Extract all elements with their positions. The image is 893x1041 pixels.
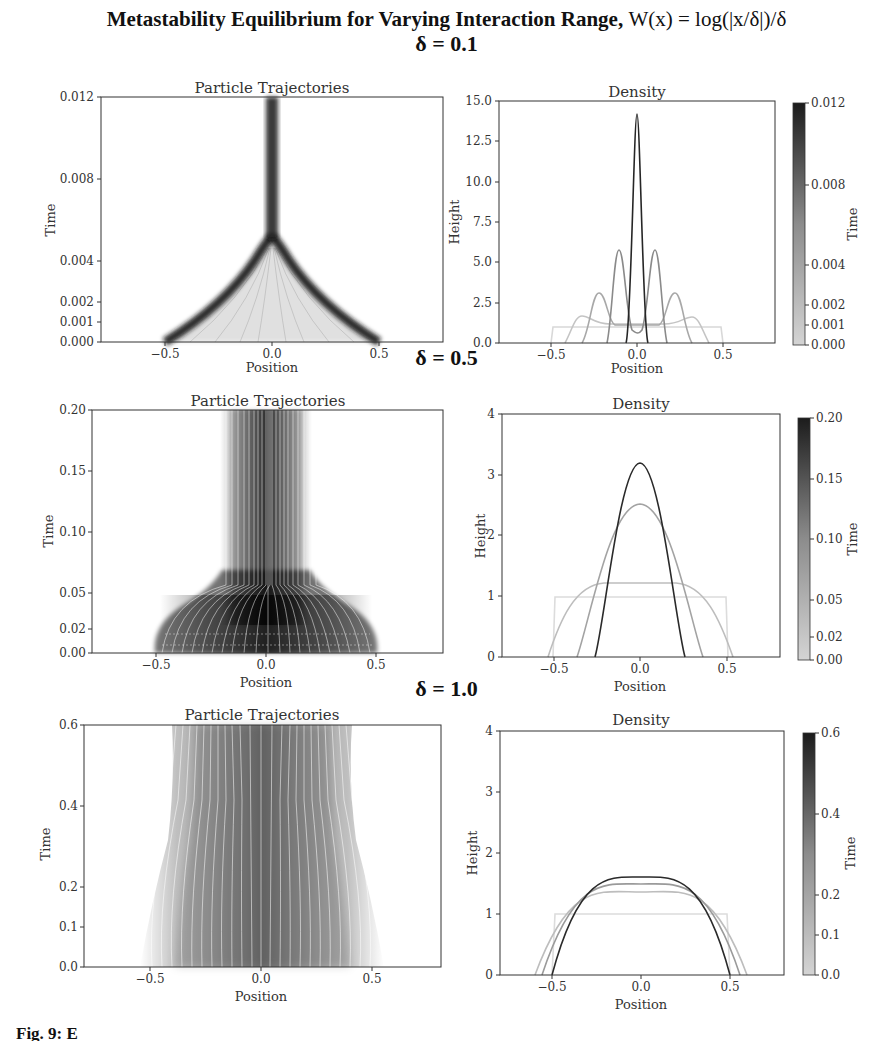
colorbar-tick-label: 0.2 (821, 888, 840, 902)
axes-frame (500, 731, 784, 975)
y-tick-label: 0.004 (60, 254, 95, 268)
x-tick-label: 0.0 (630, 662, 649, 676)
x-tick-label: 0.5 (366, 658, 385, 672)
x-tick-label: 0.0 (256, 658, 275, 672)
y-tick-label: 3 (485, 785, 493, 799)
figure-canvas: Particle Trajectories 0.000 0.001 0.002 … (0, 0, 893, 1041)
y-tick-label: 0.4 (59, 799, 78, 813)
y-tick-label: 0.1 (59, 920, 78, 934)
y-tick-label: 2 (485, 846, 493, 860)
colorbar-tick-label: 0.1 (821, 928, 840, 942)
plot-title: Density (612, 395, 670, 413)
x-axis-label: Position (246, 360, 299, 375)
y-tick-label: 15.0 (465, 94, 492, 108)
y-axis-label: Height (447, 199, 462, 245)
density-plot-delta-0-5: Density 0 1 2 3 4 −0.5 0.0 0.5 Position … (473, 395, 860, 694)
colorbar-tick-label: 0.6 (821, 726, 840, 740)
trajectories-plot-delta-1-0: Particle Trajectories (38, 706, 441, 1004)
y-tick-label: 10.0 (465, 175, 492, 189)
colorbar-tick-label: 0.002 (811, 298, 845, 312)
y-tick-label: 0.15 (59, 464, 86, 478)
y-tick-label: 0.20 (59, 403, 86, 417)
trajectories-plot-delta-0-1: Particle Trajectories 0.000 0.001 0.002 … (43, 79, 443, 375)
colorbar-tick-label: 0.00 (816, 653, 843, 667)
x-axis-label: Position (615, 997, 668, 1012)
y-tick-label: 1 (485, 907, 493, 921)
plot-title: Particle Trajectories (191, 392, 346, 410)
x-tick-label: 0.0 (627, 348, 646, 362)
x-tick-label: −0.5 (141, 658, 170, 672)
colorbar-tick-label: 0.008 (811, 178, 845, 192)
y-tick-label: 7.5 (473, 215, 492, 229)
y-axis-label: Height (473, 513, 488, 559)
x-tick-label: 0.5 (720, 980, 739, 994)
y-tick-label: 0.002 (60, 295, 94, 309)
y-tick-label: 0.02 (59, 622, 86, 636)
colorbar-label: Time (845, 522, 860, 555)
colorbar-delta-0-5: 0.00 0.02 0.05 0.10 0.15 0.20 Time (798, 411, 860, 667)
colorbar-tick-label: 0.02 (816, 630, 843, 644)
y-tick-label: 0.008 (60, 172, 94, 186)
colorbar-tick-label: 0.012 (811, 96, 845, 110)
x-tick-label: 0.5 (717, 662, 736, 676)
y-tick-label: 12.5 (465, 134, 492, 148)
y-tick-label: 2 (487, 528, 495, 542)
colorbar-tick-label: 0.000 (811, 338, 845, 352)
axes-frame (499, 101, 775, 343)
y-tick-label: 1 (487, 589, 495, 603)
density-plot-delta-1-0: Density 0 1 2 3 4 −0.5 0.0 0.5 Position … (465, 711, 858, 1012)
x-tick-label: −0.5 (536, 348, 565, 362)
y-tick-label: 0.6 (59, 718, 78, 732)
y-tick-label: 0.00 (59, 646, 86, 660)
figure-caption: Fig. 9: E (16, 1024, 78, 1041)
y-tick-label: 0.0 (59, 960, 78, 974)
x-tick-label: −0.5 (150, 347, 179, 361)
x-tick-label: −0.5 (135, 972, 164, 986)
x-tick-label: 0.0 (631, 980, 650, 994)
y-tick-label: 3 (487, 468, 495, 482)
y-tick-label: 4 (485, 724, 493, 738)
x-axis-label: Position (614, 679, 667, 694)
colorbar-tick-label: 0.001 (811, 318, 845, 332)
y-tick-label: 2.5 (473, 296, 492, 310)
x-tick-label: 0.5 (369, 347, 388, 361)
y-tick-label: 0.0 (473, 336, 492, 350)
y-tick-label: 0.05 (59, 586, 86, 600)
x-axis-label: Position (611, 361, 664, 376)
colorbar-tick-label: 0.0 (821, 968, 840, 982)
plot-title: Density (608, 83, 666, 101)
plot-title: Density (612, 711, 670, 729)
y-axis-label: Height (465, 830, 480, 876)
x-tick-label: −0.5 (537, 980, 566, 994)
colorbar-tick-label: 0.10 (816, 532, 843, 546)
colorbar-label: Time (845, 207, 860, 240)
axes-frame (502, 414, 780, 657)
x-tick-label: 0.0 (262, 347, 281, 361)
x-axis-label: Position (240, 675, 293, 690)
plot-title: Particle Trajectories (185, 706, 340, 724)
x-tick-label: 0.0 (251, 972, 270, 986)
y-axis-label: Time (43, 203, 58, 236)
x-tick-label: 0.5 (362, 972, 381, 986)
colorbar-delta-1-0: 0.0 0.1 0.2 0.4 0.6 Time (803, 726, 858, 982)
y-tick-label: 5.0 (473, 255, 492, 269)
y-tick-label: 4 (487, 407, 495, 421)
y-tick-label: 0.001 (60, 315, 94, 329)
y-tick-label: 0 (485, 968, 493, 982)
colorbar-tick-label: 0.20 (816, 411, 843, 425)
y-tick-label: 0.000 (60, 335, 94, 349)
x-axis-label: Position (235, 989, 288, 1004)
plot-title: Particle Trajectories (195, 79, 350, 97)
colorbar-delta-0-1: 0.000 0.001 0.002 0.004 0.008 0.012 Time (793, 96, 860, 352)
colorbar-tick-label: 0.004 (811, 258, 846, 272)
colorbar-tick-label: 0.15 (816, 472, 843, 486)
density-plot-delta-0-1: Density 0.0 2.5 5.0 7.5 10.0 12.5 15.0 −… (447, 83, 860, 376)
y-tick-label: 0 (487, 650, 495, 664)
y-axis-label: Time (38, 827, 53, 860)
y-tick-label: 0.012 (60, 90, 94, 104)
x-tick-label: −0.5 (539, 662, 568, 676)
colorbar-tick-label: 0.4 (821, 807, 840, 821)
colorbar-tick-label: 0.05 (816, 593, 843, 607)
x-tick-label: 0.5 (713, 348, 732, 362)
trajectories-plot-delta-0-5: Particle Trajectories (41, 392, 443, 690)
